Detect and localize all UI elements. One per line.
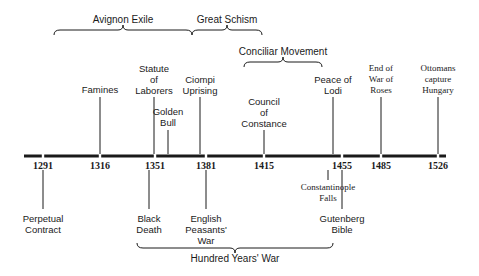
period-brace <box>192 25 262 35</box>
period-brace <box>137 243 333 253</box>
event-label-below: Perpetual Contract <box>23 213 64 235</box>
timeline-diagram: 12911316135113811415145514851526FaminesS… <box>0 0 479 276</box>
year-label: 1415 <box>254 160 274 171</box>
period-label: Avignon Exile <box>93 14 153 25</box>
year-label: 1381 <box>196 160 216 171</box>
event-label-above: Ottomans capture Hungary <box>421 63 456 96</box>
period-label: Conciliar Movement <box>239 46 327 57</box>
year-label: 1526 <box>428 160 448 171</box>
event-label-above: Golden Bull <box>153 106 184 128</box>
year-label: 1485 <box>371 160 391 171</box>
event-label-above: Peace of Lodi <box>314 74 352 96</box>
period-brace <box>244 57 322 67</box>
event-label-below: English Peasants' War <box>185 213 226 246</box>
year-label: 1316 <box>90 160 110 171</box>
timeline-lines <box>0 0 479 276</box>
period-label: Hundred Years' War <box>191 253 280 264</box>
event-label-below: Constantinople Falls <box>301 182 356 204</box>
event-label-above: End of War of Roses <box>369 63 394 96</box>
event-label-above: Ciompi Uprising <box>183 74 218 96</box>
year-label: 1351 <box>145 160 165 171</box>
period-brace <box>54 25 192 35</box>
event-label-above: Famines <box>82 84 118 95</box>
event-label-below: Gutenberg Bible <box>320 213 365 235</box>
period-label: Great Schism <box>197 14 258 25</box>
event-label-above: Statute of Laborers <box>135 63 173 96</box>
year-label: 1291 <box>33 160 53 171</box>
event-label-above: Council of Constance <box>241 96 286 129</box>
year-label: 1455 <box>332 160 352 171</box>
event-label-below: Black Death <box>136 213 161 235</box>
